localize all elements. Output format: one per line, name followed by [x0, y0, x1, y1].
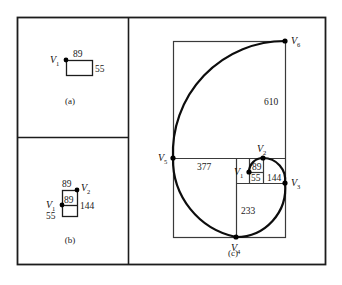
fibonacci-spiral-curve [173, 41, 285, 237]
panel-c-vertex-dot-3 [282, 180, 287, 185]
panel-b-value-89: 89 [62, 179, 72, 189]
panel-c-square-value-377: 377 [197, 162, 212, 172]
panel-c-square-value-144: 144 [267, 173, 282, 183]
panel-c-caption: (c) [228, 248, 238, 258]
fibonacci-spiral-figure: 8955V1(a)898914455V1V2(b)895514423337761… [0, 0, 342, 285]
panel-c-vertex-label-2: V2 [257, 143, 266, 156]
panel-c-vertex-label-1: V1 [234, 166, 243, 179]
panel-b-vertex-label: V1 [46, 199, 55, 212]
figure-canvas: 8955V1(a)898914455V1V2(b)895514423337761… [0, 0, 342, 285]
panel-c-vertex-label-6: V6 [291, 35, 301, 48]
panel-b-vertex-dot [60, 203, 65, 208]
panel-c-vertex-dot-6 [282, 38, 287, 43]
panel-a-vertex-dot [64, 58, 69, 63]
panel-a-value-55: 55 [95, 64, 105, 74]
panel-c-vertex-dot-5 [170, 155, 175, 160]
panel-b-caption: (b) [65, 235, 76, 245]
panel-b-vertex-label: V2 [81, 182, 90, 195]
panel-c-vertex-label-3: V3 [291, 177, 300, 190]
panel-a-rectangle [67, 61, 93, 76]
panel-c-square-value-55: 55 [251, 173, 261, 183]
panel-b-value-144: 144 [80, 201, 95, 211]
outer-frame [18, 18, 326, 265]
panel-b-value-89: 89 [64, 195, 74, 205]
panel-b-vertex-dot [75, 188, 80, 193]
panel-c-square-value-89: 89 [252, 162, 262, 172]
panel-c-vertex-dot-1 [246, 169, 251, 174]
panel-a-vertex-label: V1 [50, 54, 59, 67]
panel-c-vertex-dot-2 [260, 155, 265, 160]
panel-c-square-value-610: 610 [264, 97, 279, 107]
panel-a-caption: (a) [65, 96, 75, 106]
panel-c-vertex-label-5: V5 [158, 152, 167, 165]
panel-c-square-value-233: 233 [241, 206, 256, 216]
panel-b-value-55: 55 [46, 211, 56, 221]
panel-a-value-89: 89 [73, 49, 83, 59]
panel-c-vertex-dot-4 [233, 234, 238, 239]
